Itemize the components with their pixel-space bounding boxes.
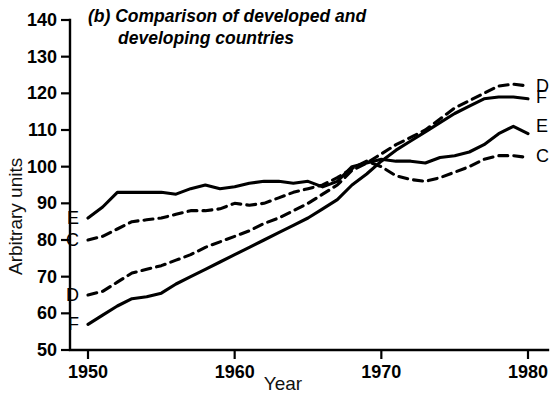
series-label-left-F: F [68,314,79,334]
chart-figure: (b) Comparison of developed and developi… [0,0,556,393]
series-label-right-C: C [536,146,549,166]
y-tick-label-100: 100 [27,157,57,177]
y-axis-title: Arbitrary units [5,158,26,275]
x-tick-label-1950: 1950 [68,362,108,382]
x-tick-label-1980: 1980 [508,362,548,382]
x-tick-label-1970: 1970 [361,362,401,382]
y-tick-label-130: 130 [27,47,57,67]
y-tick-label-90: 90 [37,193,57,213]
series-label-right-E: E [536,116,548,136]
x-axis-title: Year [264,373,303,393]
y-tick-label-60: 60 [37,303,57,323]
x-tick-label-1960: 1960 [215,362,255,382]
series-label-left-E: E [67,208,79,228]
y-tick-label-70: 70 [37,267,57,287]
chart-title-line1: (b) Comparison of developed and [88,6,366,26]
y-tick-label-110: 110 [28,120,57,140]
series-label-right-F: F [536,87,547,107]
series-label-left-C: C [66,230,79,250]
chart-title-line2: developing countries [118,28,294,48]
y-tick-label-120: 120 [27,83,57,103]
line-chart: (b) Comparison of developed and developi… [0,0,556,393]
y-tick-label-80: 80 [37,230,57,250]
y-tick-label-140: 140 [27,10,57,30]
series-label-left-D: D [66,285,79,305]
y-tick-label-50: 50 [37,340,57,360]
